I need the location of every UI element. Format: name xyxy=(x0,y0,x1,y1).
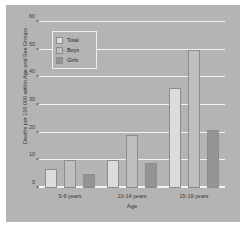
bar-girls-0[interactable] xyxy=(83,174,95,188)
bar-girls-1[interactable] xyxy=(145,163,157,188)
legend: TotalBoysGirls xyxy=(52,31,97,69)
y-tick-label: 0 xyxy=(32,179,35,185)
y-axis-title: Deaths per 100 000 within Age and Sex Gr… xyxy=(22,11,28,161)
legend-label: Total xyxy=(67,37,79,43)
y-tick-label: 50 xyxy=(29,41,35,47)
legend-item-total[interactable]: Total xyxy=(56,35,93,45)
bar-boys-1[interactable] xyxy=(126,135,138,188)
legend-item-girls[interactable]: Girls xyxy=(56,55,93,65)
y-tick-label: 60 xyxy=(29,13,35,19)
x-tick-label: 15-19 years xyxy=(179,193,208,199)
bar-total-1[interactable] xyxy=(107,160,119,188)
bar-group xyxy=(163,22,225,188)
x-tick-label: 5-9 years xyxy=(59,193,82,199)
legend-label: Boys xyxy=(67,47,79,53)
x-axis-title: Age xyxy=(39,203,225,209)
bar-boys-2[interactable] xyxy=(188,50,200,188)
x-tick-label: 10-14 years xyxy=(117,193,146,199)
legend-item-boys[interactable]: Boys xyxy=(56,45,93,55)
y-tick-label: 20 xyxy=(29,124,35,130)
y-tick-label: 10 xyxy=(29,151,35,157)
bar-group xyxy=(101,22,163,188)
legend-swatch-icon xyxy=(56,47,63,54)
legend-label: Girls xyxy=(67,57,78,63)
bar-total-0[interactable] xyxy=(45,169,57,188)
legend-swatch-icon xyxy=(56,37,63,44)
bar-girls-2[interactable] xyxy=(207,130,219,188)
bar-boys-0[interactable] xyxy=(64,160,76,188)
bar-total-2[interactable] xyxy=(169,88,181,188)
y-tick-label: 40 xyxy=(29,68,35,74)
y-tick-label: 30 xyxy=(29,96,35,102)
chart-figure: Deaths per 100 000 within Age and Sex Gr… xyxy=(6,5,240,222)
legend-swatch-icon xyxy=(56,57,63,64)
